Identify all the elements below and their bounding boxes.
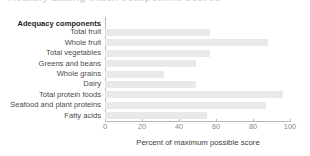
x-tick-label: 60 (212, 122, 220, 131)
y-axis-label: Fatty acids (0, 111, 101, 121)
y-axis-label: Total fruit (0, 27, 101, 37)
y-axis-label: Seafood and plant proteins (0, 100, 101, 110)
bar (105, 39, 268, 46)
y-axis-label: Total vegetables (0, 48, 101, 58)
y-axis-label: Whole grains (0, 69, 101, 79)
bar-row (105, 27, 290, 37)
bar-row (105, 90, 290, 100)
x-tick-label: 40 (175, 122, 183, 131)
x-axis-ticks: 020406080100 (0, 122, 310, 134)
y-axis-label: Total protein foods (0, 90, 101, 100)
bar (105, 81, 196, 88)
chart-figure: Healthy Eating Index component scores Ad… (0, 0, 310, 156)
bar (105, 91, 283, 98)
bar-rows (105, 17, 290, 121)
y-axis-label: Whole fruit (0, 38, 101, 48)
bar-row (105, 59, 290, 69)
bar (105, 112, 207, 119)
y-axis-labels: Adequacy components Total fruitWhole fru… (0, 17, 101, 121)
bar-row (105, 100, 290, 110)
bar-row (105, 111, 290, 121)
bar (105, 60, 196, 67)
bar (105, 50, 210, 57)
y-axis-label: Greens and beans (0, 59, 101, 69)
bar (105, 71, 164, 78)
x-tick-label: 80 (249, 122, 257, 131)
x-tick-label: 20 (138, 122, 146, 131)
plot-area (105, 17, 290, 121)
chart-title: Healthy Eating Index component scores (8, 0, 221, 3)
y-axis-label: Dairy (0, 79, 101, 89)
bar-row (105, 48, 290, 58)
x-axis-label: Percent of maximum possible score (105, 138, 291, 147)
bar-row (105, 69, 290, 79)
bar (105, 29, 210, 36)
bar-row (105, 79, 290, 89)
x-tick-label: 100 (284, 122, 296, 131)
x-tick-label: 0 (103, 122, 107, 131)
bar (105, 102, 266, 109)
bar-row (105, 38, 290, 48)
